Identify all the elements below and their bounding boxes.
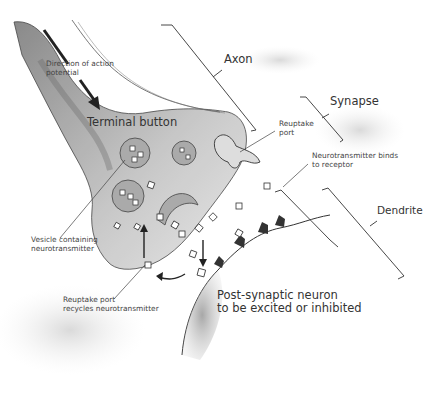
synapse-diagram: Direction of action potential Terminal b… <box>0 0 437 394</box>
shading-cloud <box>315 105 405 155</box>
label-line: neurotransmitter <box>31 245 98 254</box>
label-vesicle: Vesicle containing neurotransmitter <box>31 236 98 253</box>
label-line: port <box>279 129 314 138</box>
label-terminal-button: Terminal button <box>87 116 177 129</box>
label-axon: Axon <box>224 53 253 66</box>
label-neurotransmitter-binds: Neurotransmitter binds to receptor <box>312 152 398 169</box>
label-reuptake-port: Reuptake port <box>279 120 314 137</box>
label-line: potential <box>46 69 114 78</box>
label-line: recycles neurotransmitter <box>63 305 159 314</box>
label-synapse: Synapse <box>330 95 379 108</box>
label-line: to receptor <box>312 161 398 170</box>
label-dendrite: Dendrite <box>377 204 423 216</box>
label-direction-of-action-potential: Direction of action potential <box>46 60 114 77</box>
dendrite-bracket <box>322 188 404 279</box>
label-post-synaptic-neuron: Post-synaptic neuron to be excited or in… <box>217 289 362 315</box>
label-reuptake-recycles: Reuptake port recycles neurotransmitter <box>63 296 159 313</box>
label-line: to be excited or inhibited <box>217 302 362 315</box>
